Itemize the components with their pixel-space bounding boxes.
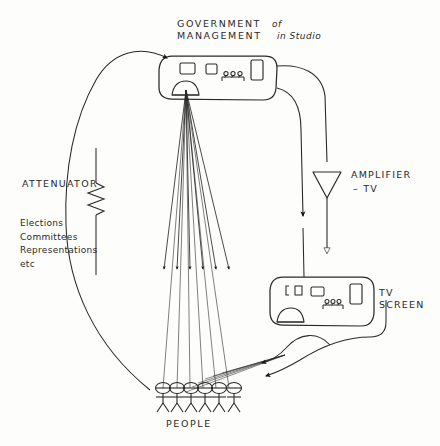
- attenuator-label: ATTENUATOR: [22, 178, 98, 190]
- tv-square-2[interactable]: [295, 286, 302, 295]
- tv-screen-label-line-2: SCREEN: [379, 299, 425, 311]
- amplifier-signal-path: [277, 66, 341, 253]
- tv-square-3[interactable]: [311, 287, 324, 296]
- tv-screen-unit[interactable]: [270, 277, 374, 326]
- person: [184, 383, 199, 413]
- broadcast-ray: [186, 90, 216, 269]
- attenuator-items-list: Elections Committees Representations etc: [20, 217, 98, 271]
- amplifier-label-line-1: AMPLIFIER: [351, 169, 411, 181]
- console-tall-rectangle[interactable]: [251, 60, 263, 80]
- person: [212, 383, 227, 413]
- diagram-title-suffix-1: of: [272, 19, 282, 30]
- tv-return-arrows: [262, 300, 386, 376]
- tv-square-1[interactable]: [286, 286, 289, 295]
- broadcast-ray-group: [163, 90, 229, 388]
- console-government-management[interactable]: [159, 56, 277, 100]
- tv-dome: [277, 308, 304, 322]
- diagram-title-line-2: MANAGEMENT: [177, 30, 262, 42]
- tv-feed-path: [277, 88, 304, 277]
- broadcast-ray: [164, 90, 186, 269]
- broadcast-ray: [186, 90, 229, 269]
- tv-tall-rectangle[interactable]: [350, 284, 362, 304]
- diagram-title-line-1: GOVERNMENT: [177, 18, 261, 30]
- viewing-ray-group: [186, 355, 285, 392]
- amplifier-triangle[interactable]: [313, 172, 341, 198]
- people-label: PEOPLE: [166, 418, 212, 430]
- console-square-1[interactable]: [180, 63, 195, 74]
- tv-screen-label-line-1: TV: [379, 287, 394, 299]
- diagram-page: GOVERNMENT of MANAGEMENT in Studio ATTEN…: [0, 0, 440, 446]
- console-knob-row[interactable]: [222, 71, 244, 81]
- tv-knob-row[interactable]: [323, 300, 343, 310]
- console-square-2[interactable]: [206, 64, 217, 74]
- amplifier-label-line-2: – TV: [353, 183, 378, 195]
- diagram-title-suffix-2: in Studio: [277, 31, 321, 42]
